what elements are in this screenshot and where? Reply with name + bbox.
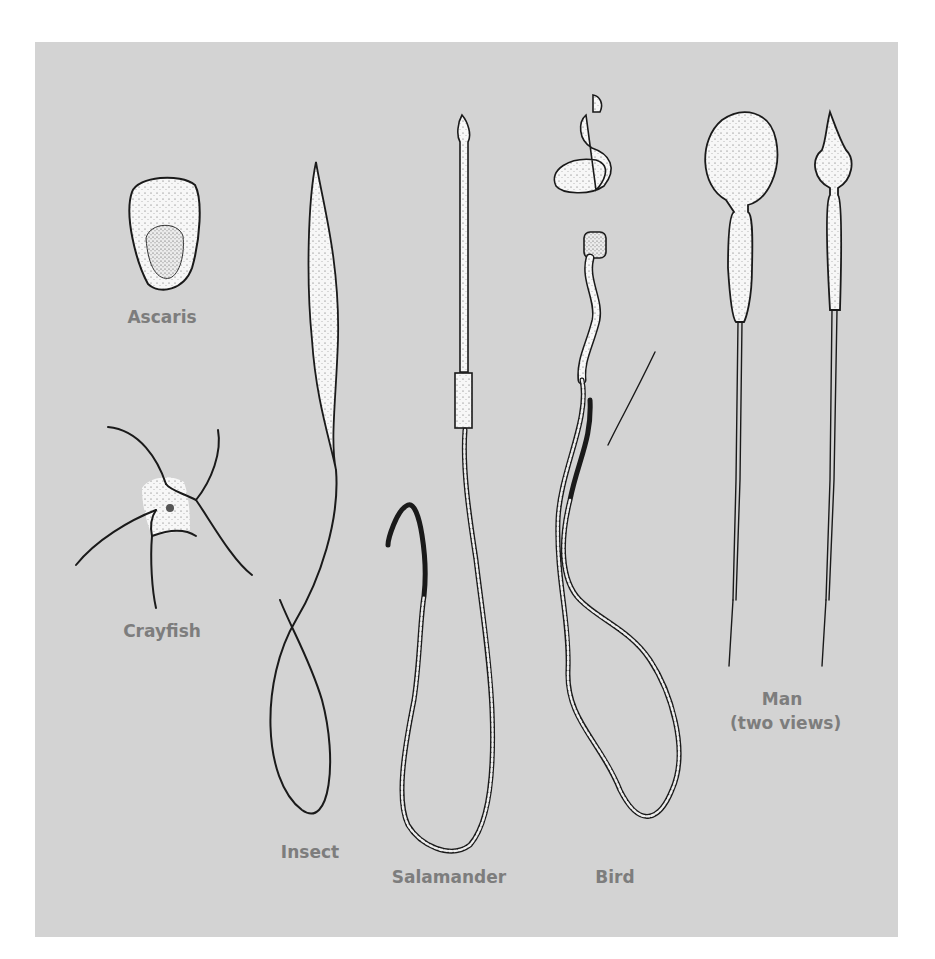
label-salamander: Salamander (390, 866, 508, 888)
salamander-sperm-drawing (388, 115, 493, 851)
label-bird: Bird (585, 866, 645, 888)
label-ascaris: Ascaris (119, 306, 205, 328)
ascaris-cell-drawing (129, 178, 199, 290)
sperm-morphology-figure: Ascaris Crayfish Insect Salamander Bird … (0, 0, 935, 959)
label-man: Man (742, 688, 822, 710)
label-crayfish: Crayfish (112, 620, 212, 642)
crayfish-cell-drawing (76, 427, 252, 608)
illustration-canvas (0, 0, 935, 959)
label-man-two-views: (two views) (730, 712, 840, 734)
label-insect: Insect (270, 841, 350, 863)
human-sperm-drawing-view-2 (815, 112, 852, 666)
insect-sperm-drawing (270, 162, 338, 813)
human-sperm-drawing-view-1 (705, 112, 777, 666)
bird-sperm-drawing (554, 95, 679, 816)
